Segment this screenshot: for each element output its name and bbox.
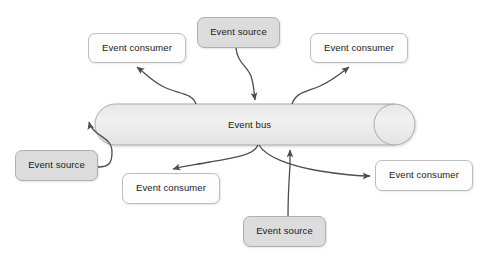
node-consumer-bottom-mid[interactable]: Event consumer <box>122 173 220 204</box>
edge-bus-to-consumer-top-right <box>292 67 349 104</box>
node-consumer-top-right[interactable]: Event consumer <box>310 33 408 63</box>
node-label: Event consumer <box>136 183 206 193</box>
edge-bus-to-consumer-top-left <box>137 67 196 104</box>
node-label: Event consumer <box>324 43 394 53</box>
event-bus-label: Event bus <box>228 119 271 130</box>
node-consumer-top-left[interactable]: Event consumer <box>88 33 186 63</box>
node-source-left[interactable]: Event source <box>15 150 98 181</box>
edge-bus-to-consumer-right <box>259 145 370 176</box>
node-source-bottom[interactable]: Event source <box>243 216 326 247</box>
edge-source-bottom-to-bus <box>288 150 290 216</box>
node-label: Event source <box>28 160 85 170</box>
event-bus-diagram: Event bus Event consumer Event source Ev… <box>0 0 482 268</box>
node-label: Event consumer <box>389 170 459 180</box>
node-source-top-center[interactable]: Event source <box>197 17 280 48</box>
node-label: Event consumer <box>102 43 172 53</box>
edge-source-top-center-to-bus <box>236 48 255 100</box>
edge-bus-to-consumer-bottom-mid <box>173 145 258 169</box>
node-label: Event source <box>210 27 267 37</box>
node-label: Event source <box>256 226 313 236</box>
node-consumer-right[interactable]: Event consumer <box>375 160 473 191</box>
